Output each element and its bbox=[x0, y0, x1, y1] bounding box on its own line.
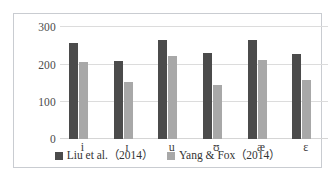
bar-series-a bbox=[248, 40, 257, 139]
bar-series-b bbox=[302, 80, 311, 139]
bar-series-b bbox=[213, 85, 222, 139]
bar-series-a bbox=[114, 61, 123, 139]
bar-group bbox=[149, 26, 194, 139]
bar-series-b bbox=[258, 60, 267, 139]
y-tick-label-200: 200 bbox=[22, 60, 56, 72]
legend-swatch-icon-series-a bbox=[55, 152, 63, 160]
legend-entry-yang-fox: Yang & Fox（2014） bbox=[167, 150, 280, 162]
legend-label-series-a: Liu et al.（2014） bbox=[67, 150, 153, 162]
y-tick-label-100: 100 bbox=[22, 97, 56, 109]
bars-layer bbox=[60, 26, 328, 139]
legend-entry-liu: Liu et al.（2014） bbox=[55, 150, 153, 162]
bar-group bbox=[194, 26, 239, 139]
bar-chart-figure: 300 200 100 0 iɪuʊæɛ Liu et al.（2014） Ya… bbox=[0, 0, 336, 182]
bar-series-b bbox=[168, 56, 177, 139]
chart-legend: Liu et al.（2014） Yang & Fox（2014） bbox=[14, 145, 321, 167]
bar-series-a bbox=[292, 54, 301, 139]
bar-series-a bbox=[203, 53, 212, 139]
bar-series-a bbox=[69, 43, 78, 139]
y-tick-label-0: 0 bbox=[22, 134, 56, 146]
bar-series-b bbox=[79, 62, 88, 139]
legend-swatch-icon-series-b bbox=[167, 152, 175, 160]
bar-series-a bbox=[158, 40, 167, 139]
bar-series-b bbox=[124, 82, 133, 139]
bar-group bbox=[283, 26, 328, 139]
bar-group bbox=[239, 26, 284, 139]
bar-group bbox=[105, 26, 150, 139]
chart-plot-frame: 300 200 100 0 iɪuʊæɛ Liu et al.（2014） Ya… bbox=[13, 13, 322, 168]
y-tick-label-300: 300 bbox=[22, 22, 56, 34]
legend-label-series-b: Yang & Fox（2014） bbox=[179, 150, 280, 162]
bar-group bbox=[60, 26, 105, 139]
y-axis: 300 200 100 0 bbox=[18, 26, 56, 139]
